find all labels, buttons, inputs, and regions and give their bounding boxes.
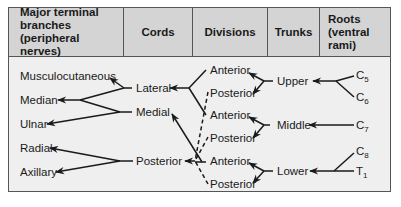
root-t1: T1 (356, 165, 368, 180)
division-lower-posterior: Posterior (210, 178, 256, 190)
root-c7: C7 (356, 119, 369, 134)
terminal-branch-median: Median (20, 94, 58, 106)
terminal-branch-radial: Radial (20, 142, 53, 154)
terminal-branch-axillary: Axillary (20, 166, 57, 178)
cord-lateral: Lateral (136, 82, 171, 94)
root-c8: C8 (356, 145, 369, 160)
trunk-middle: Middle (277, 119, 311, 131)
root-c5: C5 (356, 69, 369, 84)
plexus-lines: Musculocutaneous Median Ulnar Radial Axi… (0, 0, 401, 207)
division-middle-anterior: Anterior (210, 109, 250, 121)
division-middle-posterior: Posterior (210, 132, 256, 144)
trunk-upper: Upper (277, 75, 308, 87)
division-upper-anterior: Anterior (210, 64, 250, 76)
trunk-lower: Lower (277, 165, 308, 177)
division-upper-posterior: Posterior (210, 87, 256, 99)
terminal-branch-ulnar: Ulnar (20, 118, 48, 130)
cord-posterior: Posterior (136, 155, 182, 167)
terminal-branch-musculocutaneous: Musculocutaneous (20, 70, 116, 82)
cord-medial: Medial (136, 106, 170, 118)
division-lower-anterior: Anterior (210, 155, 250, 167)
root-c6: C6 (356, 91, 369, 106)
